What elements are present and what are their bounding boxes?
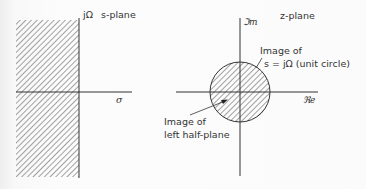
z-plane-real-axis-label: ℜe [303,95,315,106]
interior-annotation-line2: left half-plane [164,129,230,140]
left-half-plane-region [16,20,79,177]
unit-circle-leader-line [256,58,262,68]
interior-annotation-line1: Image of [164,116,206,127]
unit-circle-annotation-line2: s = jΩ (unit circle) [264,58,350,69]
z-plane-imag-axis-label: ℑm [243,17,258,28]
s-plane-real-axis-label: σ [116,94,123,105]
s-plane-title: s-plane [101,9,136,20]
diagram-canvas: jΩ s-plane σ z-plane ℑm ℜe Image of s = … [0,0,366,189]
z-plane-title: z-plane [280,10,315,21]
unit-circle-annotation-line1: Image of [260,45,302,56]
s-plane-imag-axis-label: jΩ [83,9,93,20]
